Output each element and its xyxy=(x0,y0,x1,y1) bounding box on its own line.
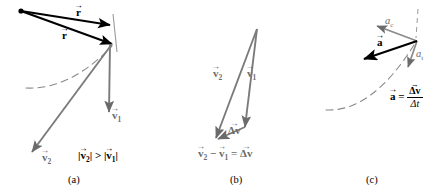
label-delta-v: Δv xyxy=(228,125,240,136)
label-r-first: r xyxy=(76,7,81,18)
label-v2: v2 xyxy=(213,68,222,81)
caption-b: (b) xyxy=(230,175,242,186)
magnitude-inequality: |v2| > |v1| xyxy=(78,150,118,163)
panel-b-graphics xyxy=(150,0,290,193)
panel-b: v2 v1 Δv v2 − v1 = Δv (b) xyxy=(150,0,290,193)
delta-v-over-delta-t-fraction: Δv Δt xyxy=(407,86,422,109)
velocity-vector-v2 xyxy=(32,44,112,152)
caption-a: (a) xyxy=(68,175,80,186)
label-r-second: r xyxy=(62,30,67,41)
panel-a-graphics xyxy=(0,0,150,193)
radius-reference-line xyxy=(416,9,418,38)
label-a-tangential: at xyxy=(416,49,423,62)
radius-reference-line xyxy=(113,14,117,52)
acceleration-equation: a = Δv Δt xyxy=(390,86,423,109)
physics-vector-figure: r r v1 v2 |v2| > |v1| (a) xyxy=(0,0,442,193)
label-a-vector: a xyxy=(377,37,383,48)
label-a-centripetal: ac xyxy=(385,16,393,29)
delta-v-equation: v2 − v1 = Δv xyxy=(198,148,252,161)
caption-c: (c) xyxy=(366,175,378,186)
label-v1: v1 xyxy=(247,68,256,81)
panel-a: r r v1 v2 |v2| > |v1| (a) xyxy=(0,0,150,193)
acceleration-vector-a xyxy=(364,41,417,59)
label-v1: v1 xyxy=(112,110,121,123)
panel-c: ac at a a = Δv Δt (c) xyxy=(290,0,442,193)
label-v2: v2 xyxy=(42,152,51,165)
velocity-vector-v1 xyxy=(109,44,110,112)
trajectory-arc xyxy=(26,46,112,88)
